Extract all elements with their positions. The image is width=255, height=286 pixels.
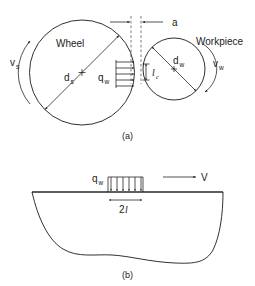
technical-figure: a Wheel Workpiece d s d w v s [0, 0, 255, 286]
svg-text:l: l [125, 204, 128, 215]
panel-b-group: q w 2 l V (b) [32, 172, 223, 280]
svg-text:d: d [64, 72, 70, 83]
svg-text:w: w [98, 179, 104, 186]
velocity-label: V [201, 172, 208, 183]
panel-a-group: a Wheel Workpiece d s d w v s [10, 16, 243, 141]
svg-text:s: s [16, 63, 20, 70]
svg-text:w: w [179, 61, 185, 68]
svg-text:w: w [104, 78, 110, 85]
band-heat-flux-arrows [111, 177, 141, 191]
svg-text:q: q [98, 72, 104, 83]
contact-heat-flux-label: q w [98, 72, 110, 85]
wheel-rotation-arc [18, 41, 30, 104]
svg-text:w: w [218, 64, 224, 71]
band-heat-flux-label: q w [92, 173, 104, 186]
workpiece-body-outline [32, 192, 223, 263]
workpiece-diameter-line [152, 47, 196, 91]
wheel-diameter-label: d s [64, 72, 75, 85]
panel-a-caption: (a) [122, 131, 133, 141]
svg-text:l: l [152, 67, 155, 78]
svg-text:c: c [156, 73, 159, 80]
wheel-label: Wheel [56, 38, 84, 49]
svg-text:v: v [10, 57, 15, 68]
workpiece-speed-label: v w [213, 58, 224, 71]
svg-text:s: s [71, 78, 75, 85]
workpiece-label: Workpiece [196, 36, 243, 47]
band-width-label: 2 l [119, 204, 128, 215]
workpiece-diameter-label: d w [173, 55, 185, 68]
wheel-speed-label: v s [10, 57, 20, 70]
svg-text:v: v [213, 58, 218, 69]
contact-length-label: l c [152, 67, 159, 80]
figure-container: a Wheel Workpiece d s d w v s [0, 0, 255, 286]
panel-b-caption: (b) [122, 270, 133, 280]
svg-text:d: d [173, 55, 179, 66]
depth-of-cut-label: a [172, 17, 178, 28]
svg-text:q: q [92, 173, 98, 184]
